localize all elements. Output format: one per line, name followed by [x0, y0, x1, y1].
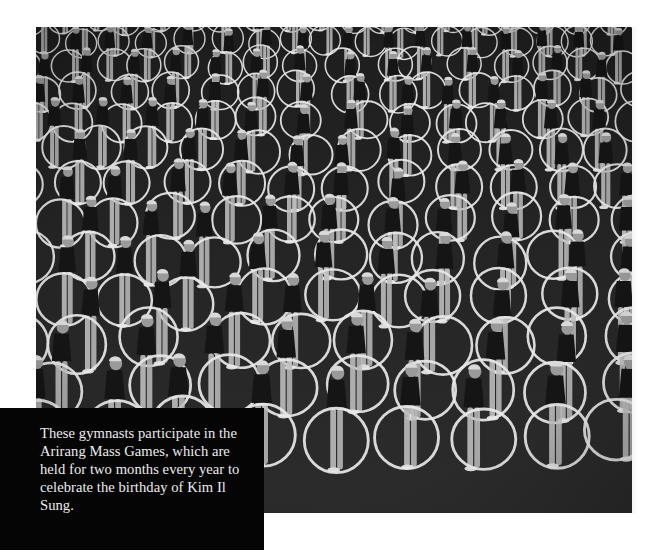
photo-caption-box: These gymnasts participate in the Ariran… [0, 408, 264, 550]
photo-edge-strip [632, 27, 638, 513]
photo-caption-text: These gymnasts participate in the Ariran… [40, 424, 246, 514]
page: These gymnasts participate in the Ariran… [0, 0, 667, 559]
